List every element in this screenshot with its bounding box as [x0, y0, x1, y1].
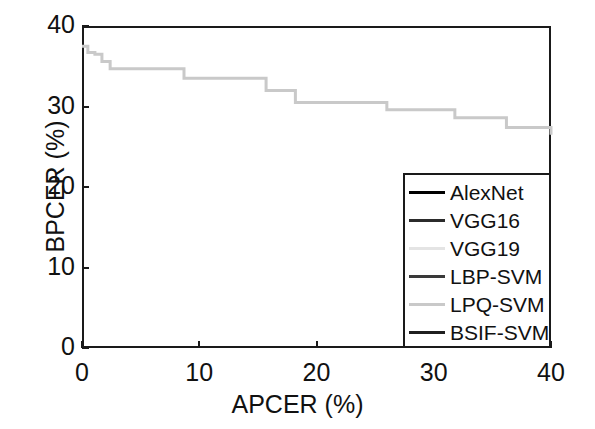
x-ticklabel-0: 0: [47, 358, 117, 387]
legend-item-alexnet[interactable]: AlexNet: [405, 178, 549, 206]
legend-item-label: VGG16: [450, 210, 520, 231]
y-axis-title: BPCER (%): [41, 37, 70, 337]
x-ticklabel-40: 40: [516, 358, 586, 387]
legend-item-vgg19[interactable]: VGG19: [405, 234, 549, 262]
legend-item-label: AlexNet: [450, 182, 524, 203]
x-ticklabel-30: 30: [399, 358, 469, 387]
legend-swatch-icon: [409, 275, 445, 278]
legend-swatch-icon: [409, 331, 445, 334]
legend-swatch-icon: [409, 247, 445, 250]
x-tick-0: [81, 341, 83, 348]
y-tick-40: [82, 25, 89, 27]
legend: AlexNetVGG16VGG19LBP-SVMLPQ-SVMBSIF-SVM: [403, 173, 551, 348]
legend-item-label: VGG19: [450, 238, 520, 259]
y-tick-10: [82, 267, 89, 269]
x-tick-20: [316, 341, 318, 348]
legend-item-label: LPQ-SVM: [450, 294, 545, 315]
y-ticklabel-40: 40: [5, 10, 75, 39]
x-ticklabel-20: 20: [282, 358, 352, 387]
legend-item-bsif-svm[interactable]: BSIF-SVM: [405, 318, 549, 346]
legend-swatch-icon: [409, 303, 445, 306]
series-line-lpq-svm: [82, 46, 551, 135]
x-tick-10: [198, 341, 200, 348]
legend-item-label: BSIF-SVM: [450, 322, 549, 343]
legend-swatch-icon: [409, 191, 445, 194]
chart-figure: 0 10 20 30 40 0 10 20 30 40 APCER (%) BP…: [0, 0, 595, 429]
legend-swatch-icon: [409, 219, 445, 222]
y-tick-20: [82, 186, 89, 188]
legend-item-label: LBP-SVM: [450, 266, 542, 287]
x-axis-title: APCER (%): [0, 390, 595, 419]
x-ticklabel-10: 10: [164, 358, 234, 387]
y-tick-30: [82, 106, 89, 108]
y-tick-0: [82, 347, 89, 349]
legend-item-lbp-svm[interactable]: LBP-SVM: [405, 262, 549, 290]
legend-item-vgg16[interactable]: VGG16: [405, 206, 549, 234]
legend-item-lpq-svm[interactable]: LPQ-SVM: [405, 290, 549, 318]
